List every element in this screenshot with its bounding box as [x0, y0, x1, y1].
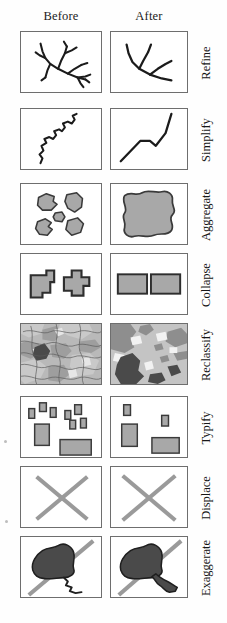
typify-before-graphic	[21, 397, 101, 457]
row-label-refine: Refine	[199, 46, 214, 79]
row-label-wrap-aggregate: Aggregate	[186, 183, 226, 246]
cell-collapse-before	[20, 253, 102, 315]
row-label-reclassify: Reclassify	[199, 328, 214, 380]
typify-after-graphic	[111, 397, 187, 457]
reclassify-after-graphic	[111, 324, 187, 384]
row-label-wrap-collapse: Collapse	[186, 253, 226, 316]
aggregate-before-graphic	[21, 184, 101, 244]
row-simplify: Simplify	[0, 108, 227, 171]
row-collapse: Collapse	[0, 253, 227, 316]
cell-displace-before	[20, 466, 102, 528]
row-aggregate: Aggregate	[0, 183, 227, 246]
row-label-wrap-reclassify: Reclassify	[186, 323, 226, 386]
displace-after-graphic	[111, 467, 187, 527]
cell-typify-before	[20, 396, 102, 458]
cell-exaggerate-before	[20, 536, 102, 598]
row-label-wrap-typify: Typify	[186, 396, 226, 459]
row-label-wrap-exaggerate: Exaggerate	[186, 536, 226, 599]
cell-simplify-before	[20, 108, 102, 170]
cell-reclassify-after	[110, 323, 188, 385]
cell-reclassify-before	[20, 323, 102, 385]
row-label-wrap-displace: Displace	[186, 466, 226, 529]
column-header-after: After	[110, 9, 188, 24]
row-label-wrap-refine: Refine	[186, 31, 226, 94]
collapse-after-graphic	[111, 254, 187, 314]
collapse-before-graphic	[21, 254, 101, 314]
row-label-collapse: Collapse	[199, 263, 214, 307]
cell-refine-before	[20, 31, 102, 93]
simplify-after-graphic	[111, 109, 187, 169]
cell-displace-after	[110, 466, 188, 528]
cell-exaggerate-after	[110, 536, 188, 598]
row-typify: Typify	[0, 396, 227, 459]
page-speck-2	[5, 520, 8, 523]
exaggerate-before-graphic	[21, 537, 101, 597]
displace-before-graphic	[21, 467, 101, 527]
row-label-simplify: Simplify	[199, 118, 214, 162]
row-reclassify: Reclassify	[0, 323, 227, 386]
row-label-displace: Displace	[199, 476, 214, 520]
cell-refine-after	[110, 31, 188, 93]
reclassify-before-graphic	[21, 324, 101, 384]
cell-aggregate-before	[20, 183, 102, 245]
refine-before-graphic	[21, 32, 101, 92]
cell-aggregate-after	[110, 183, 188, 245]
aggregate-after-graphic	[111, 184, 187, 244]
refine-after-graphic	[111, 32, 187, 92]
column-headers: Before After	[0, 9, 190, 26]
row-displace: Displace	[0, 466, 227, 529]
generalization-figure: Before After	[0, 0, 227, 623]
row-label-wrap-simplify: Simplify	[186, 108, 226, 171]
row-exaggerate: Exaggerate	[0, 536, 227, 599]
cell-collapse-after	[110, 253, 188, 315]
row-label-typify: Typify	[199, 411, 214, 444]
row-label-aggregate: Aggregate	[199, 188, 214, 240]
cell-simplify-after	[110, 108, 188, 170]
page-speck-1	[4, 440, 7, 443]
simplify-before-graphic	[21, 109, 101, 169]
row-label-exaggerate: Exaggerate	[199, 539, 214, 595]
cell-typify-after	[110, 396, 188, 458]
row-refine: Refine	[0, 31, 227, 94]
column-header-before: Before	[20, 9, 102, 24]
exaggerate-after-graphic	[111, 537, 187, 597]
